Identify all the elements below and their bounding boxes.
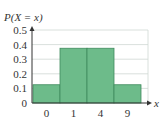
y-tick-label: 0	[22, 97, 28, 109]
y-tick-labels: 00.10.20.30.40.5	[13, 24, 27, 109]
y-tick-label: 0.1	[13, 82, 27, 94]
x-tick-label: 1	[71, 107, 77, 119]
y-tick-label: 0.3	[13, 53, 27, 65]
x-tick-label: 4	[98, 107, 104, 119]
x-axis-title: x	[153, 97, 159, 109]
bars	[33, 48, 141, 103]
y-axis-arrow-icon	[30, 26, 35, 31]
y-tick-label: 0.4	[13, 39, 27, 51]
x-tick-label: 9	[125, 107, 131, 119]
bar-1	[60, 48, 87, 103]
x-axis-arrow-icon	[147, 101, 152, 106]
y-axis-title: P(X = x)	[3, 11, 43, 24]
x-tick-label: 0	[44, 107, 50, 119]
y-tick-label: 0.5	[13, 24, 27, 36]
chart: 00.10.20.30.40.5 0149 P(X = x) x	[0, 0, 164, 121]
x-tick-labels: 0149	[44, 107, 131, 119]
bar-0	[33, 85, 60, 103]
bar-4	[87, 48, 114, 103]
bar-9	[114, 85, 141, 103]
y-tick-label: 0.2	[13, 68, 27, 80]
